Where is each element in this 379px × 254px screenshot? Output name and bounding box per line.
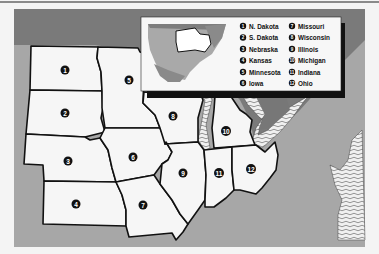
svg-text:Kansas: Kansas xyxy=(249,57,272,64)
badge-8: 8 xyxy=(169,112,178,121)
svg-text:2: 2 xyxy=(63,110,67,117)
svg-text:Michigan: Michigan xyxy=(298,57,326,65)
svg-text:S. Dakota: S. Dakota xyxy=(249,34,279,41)
svg-text:Ohio: Ohio xyxy=(298,80,313,87)
legend-item-6: 6Iowa xyxy=(240,80,264,87)
svg-text:N. Dakota: N. Dakota xyxy=(249,23,279,30)
svg-text:1: 1 xyxy=(242,24,245,29)
badge-6: 6 xyxy=(129,153,138,162)
svg-text:12: 12 xyxy=(289,81,295,86)
badge-2: 2 xyxy=(61,109,70,118)
svg-text:5: 5 xyxy=(127,77,131,84)
svg-text:3: 3 xyxy=(242,47,245,52)
svg-text:4: 4 xyxy=(242,58,245,63)
svg-text:11: 11 xyxy=(216,170,223,177)
svg-text:10: 10 xyxy=(222,128,230,135)
svg-text:3: 3 xyxy=(66,158,70,165)
svg-text:Missouri: Missouri xyxy=(298,23,325,30)
svg-text:6: 6 xyxy=(131,154,135,161)
svg-text:8: 8 xyxy=(171,113,175,120)
svg-text:7: 7 xyxy=(291,24,294,29)
svg-text:4: 4 xyxy=(74,201,78,208)
svg-text:10: 10 xyxy=(289,58,295,63)
legend-item-11: 11Indiana xyxy=(289,69,321,76)
midwest-map: 1 2 3 4 5 6 7 8 9 10 11 12 1N. Dakota 2S… xyxy=(0,0,379,254)
badge-4: 4 xyxy=(72,200,81,209)
svg-text:2: 2 xyxy=(242,35,245,40)
svg-text:Illinois: Illinois xyxy=(298,46,319,53)
legend-item-4: 4Kansas xyxy=(240,57,272,64)
svg-text:5: 5 xyxy=(242,70,245,75)
svg-text:Iowa: Iowa xyxy=(249,80,264,87)
svg-text:6: 6 xyxy=(242,81,245,86)
svg-text:9: 9 xyxy=(291,47,294,52)
badge-9: 9 xyxy=(179,169,188,178)
legend-item-12: 12Ohio xyxy=(289,80,313,87)
badge-3: 3 xyxy=(64,157,73,166)
svg-text:8: 8 xyxy=(291,35,294,40)
badge-1: 1 xyxy=(61,66,70,75)
svg-text:Indiana: Indiana xyxy=(298,69,321,76)
svg-text:Minnesota: Minnesota xyxy=(249,69,281,76)
badge-5: 5 xyxy=(125,76,134,85)
svg-text:Nebraska: Nebraska xyxy=(249,46,278,53)
svg-text:1: 1 xyxy=(63,67,67,74)
state-kansas[interactable] xyxy=(43,181,126,226)
badge-7: 7 xyxy=(139,201,148,210)
badge-10: 10 xyxy=(221,126,231,136)
legend-item-9: 9Illinois xyxy=(289,46,319,53)
svg-text:9: 9 xyxy=(181,170,185,177)
badge-12: 12 xyxy=(246,164,256,174)
badge-11: 11 xyxy=(214,168,224,178)
svg-text:11: 11 xyxy=(290,70,295,75)
svg-text:Wisconsin: Wisconsin xyxy=(298,34,330,41)
svg-text:7: 7 xyxy=(141,202,145,209)
svg-text:12: 12 xyxy=(247,166,255,173)
